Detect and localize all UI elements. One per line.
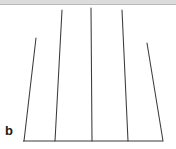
line-plot [0,0,176,149]
figure-panel-b: b [0,0,176,149]
peak-line-2 [55,10,62,141]
peak-line-1 [24,38,36,141]
peak-line-5 [147,43,163,141]
panel-label: b [5,124,13,138]
peak-line-3 [91,8,92,141]
peak-line-4 [122,10,128,141]
